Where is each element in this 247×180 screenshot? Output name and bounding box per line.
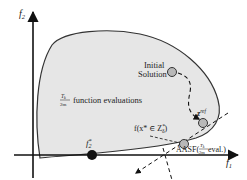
ideal-point-marker [87, 150, 97, 160]
initial-solution-marker [168, 68, 177, 77]
f2-axis-label: f2 [19, 8, 26, 20]
svg-text:2m: 2m [199, 150, 205, 155]
svg-text:AASF(: AASF( [176, 145, 199, 154]
initial-solution-label-line2: Solution [138, 69, 168, 79]
aasf-label: AASF( Tk 2m eval.) [176, 143, 226, 155]
svg-text:function evaluations: function evaluations [73, 95, 142, 105]
evaluations-label: Tk 2m function evaluations [60, 93, 142, 107]
zref-marker [199, 119, 208, 128]
svg-text:2m: 2m [60, 102, 67, 107]
svg-text:eval.): eval.) [208, 145, 226, 154]
svg-text:Tk: Tk [61, 93, 66, 100]
projected-point-label: f(x* ∈ Z*δ) [134, 123, 167, 134]
svg-text:Tk: Tk [200, 143, 205, 149]
diagram-canvas: f2 f1 f*2 Initial Solution Tk 2m functio… [0, 0, 247, 180]
f1-axis-label: f1 [226, 157, 232, 169]
ideal-point-label: f*2 [86, 138, 92, 149]
